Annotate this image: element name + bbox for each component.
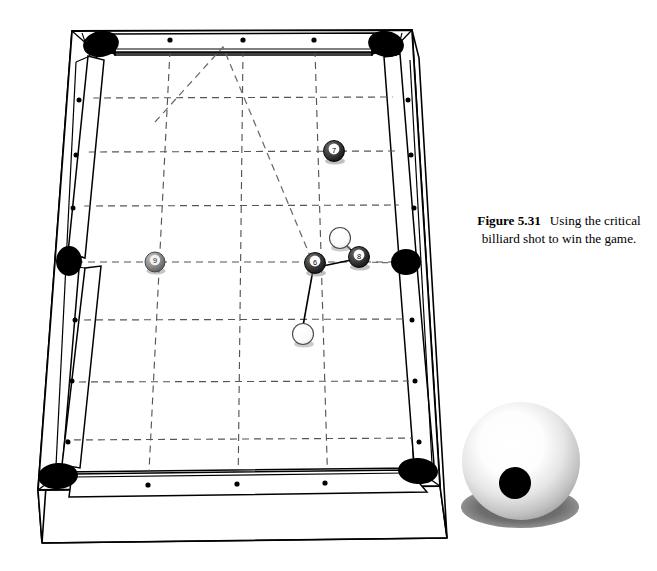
diamond-right-2 <box>409 153 414 158</box>
ball-6: 6 <box>305 253 327 277</box>
diamond-right-4 <box>410 318 415 323</box>
figure-container: 7 9 6 8 <box>0 0 657 571</box>
diamond-left-3 <box>71 206 76 211</box>
diamond-right-6 <box>417 440 422 445</box>
billiard-table-illustration: 7 9 6 8 <box>0 0 657 571</box>
ball-9-number: 9 <box>153 256 157 265</box>
diamond-left-6 <box>66 440 71 445</box>
cue-ball-closeup <box>461 402 580 528</box>
cue-ball-closeup-dot <box>499 467 531 499</box>
diamond-right-5 <box>413 379 418 384</box>
figure-caption-label: Figure 5.31 <box>477 213 541 228</box>
rail-bottom <box>69 470 427 497</box>
diamond-right-1 <box>406 98 411 103</box>
diamond-bottom-3 <box>322 480 327 485</box>
cue-ball-lower <box>293 324 315 348</box>
diamond-top-3 <box>311 37 316 42</box>
figure-caption: Figure 5.31Using the critical billiard s… <box>470 212 648 247</box>
diamond-bottom-2 <box>234 481 239 486</box>
cue-ball-upper <box>330 228 352 252</box>
ball-7-number: 7 <box>332 146 336 155</box>
ball-7: 7 <box>324 141 346 165</box>
diamond-left-2 <box>74 153 79 158</box>
diamond-top-2 <box>240 37 245 42</box>
diamond-left-1 <box>77 98 82 103</box>
ball-8-number: 8 <box>357 252 361 261</box>
pocket-side-right <box>391 249 421 275</box>
diamond-left-4 <box>73 318 78 323</box>
ball-6-number: 6 <box>313 258 317 267</box>
diamond-bottom-1 <box>145 482 150 487</box>
diamond-top-1 <box>167 37 172 42</box>
cue-ball-lower-body <box>293 324 314 345</box>
ball-8: 8 <box>349 247 371 271</box>
diamond-right-3 <box>412 206 417 211</box>
cue-ball-upper-body <box>330 228 351 249</box>
cue-ball-closeup-body <box>462 402 580 520</box>
diamond-left-5 <box>70 379 75 384</box>
pocket-side-left <box>56 246 82 276</box>
ball-9: 9 <box>145 252 166 274</box>
